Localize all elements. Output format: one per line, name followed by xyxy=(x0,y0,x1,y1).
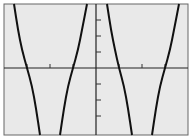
function-plot xyxy=(0,0,191,139)
graph-display xyxy=(0,0,191,139)
